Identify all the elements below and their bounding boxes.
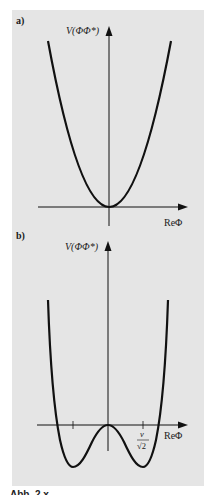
panel-b-y-arrow-icon — [105, 241, 112, 251]
panel-a-y-axis-label: V(ΦΦ*) — [66, 25, 100, 37]
panel-b-x-axis-label: ReΦ — [164, 430, 182, 441]
panel-a-label: a) — [16, 15, 24, 27]
panel-a-y-arrow-icon — [106, 26, 113, 36]
panel-b-x-arrow-icon — [178, 422, 188, 429]
panel-b-y-axis-label: V(ΦΦ*) — [65, 241, 99, 253]
panel-b-tick-denominator: √2 — [137, 441, 146, 451]
figure-caption-fragment: Abb. 2.x — [10, 486, 49, 495]
panel-a-x-arrow-icon — [178, 204, 188, 211]
panel-a-x-axis-label: ReΦ — [164, 217, 182, 228]
panel-b-label: b) — [16, 230, 25, 242]
panel-b-tick-numerator: v — [140, 429, 144, 439]
potential-diagram: a) V(ΦΦ*) ReΦ b) V(ΦΦ*) ReΦ v √2 — [0, 0, 215, 495]
